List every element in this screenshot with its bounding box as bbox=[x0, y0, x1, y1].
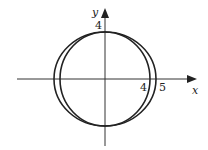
y-tick-label-4: 4 bbox=[95, 19, 102, 32]
y-axis-arrow-icon bbox=[101, 8, 109, 18]
diagram-canvas: y 4 4 5 x bbox=[0, 0, 208, 150]
x-tick-label-5: 5 bbox=[159, 81, 166, 94]
x-axis-label: x bbox=[192, 84, 199, 97]
x-axis-arrow-icon bbox=[187, 75, 197, 83]
x-tick-label-4: 4 bbox=[140, 81, 147, 94]
y-axis-label: y bbox=[91, 6, 99, 19]
